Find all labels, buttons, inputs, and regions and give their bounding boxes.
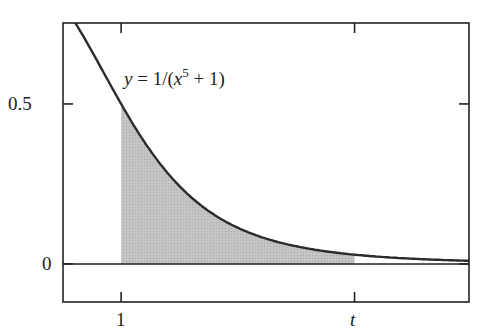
- x-tick-label-1: 1: [116, 309, 126, 330]
- y-tick-label-0.5: 0.5: [8, 93, 32, 114]
- shaded-area: [121, 104, 355, 264]
- y-tick-label-0: 0: [42, 253, 52, 274]
- x-tick-label-t: t: [350, 309, 356, 330]
- function-label: y = 1/(x5 + 1): [122, 65, 225, 90]
- plot-area: 0.5 0 1 t y = 1/(x5 + 1): [0, 0, 492, 335]
